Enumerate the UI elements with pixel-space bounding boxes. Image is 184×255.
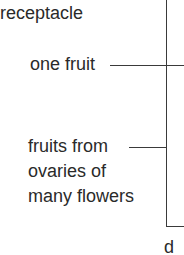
label-fruits-line3: many flowers xyxy=(28,185,134,207)
leader-line-one-fruit xyxy=(110,65,184,66)
panel-letter: d xyxy=(164,236,174,255)
label-one-fruit: one fruit xyxy=(30,53,95,75)
label-receptacle: receptacle xyxy=(0,2,83,24)
leader-line-fruits xyxy=(129,147,166,148)
label-fruits-line1: fruits from xyxy=(28,135,108,157)
bracket-vertical-line xyxy=(166,0,167,227)
bracket-bottom-line xyxy=(166,226,184,227)
label-fruits-line2: ovaries of xyxy=(28,160,106,182)
